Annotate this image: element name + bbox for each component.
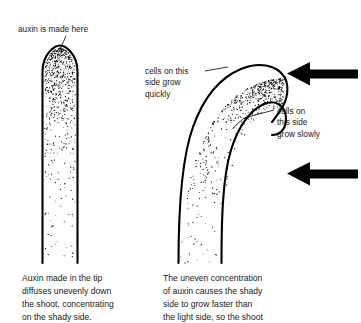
stipple-dot	[280, 97, 281, 98]
stipple-dot	[65, 76, 66, 77]
stipple-dot	[56, 98, 57, 99]
stipple-dot	[57, 66, 58, 67]
stipple-dot	[255, 105, 256, 106]
stipple-dot	[265, 85, 266, 86]
stipple-dot	[71, 120, 72, 121]
stipple-dot	[216, 147, 217, 148]
stipple-dot	[69, 61, 70, 62]
stipple-dot	[206, 161, 207, 162]
stipple-dot	[188, 223, 189, 224]
stipple-dot	[54, 110, 55, 111]
stipple-dot	[67, 52, 68, 53]
stipple-dot	[280, 92, 281, 93]
stipple-dot	[232, 102, 233, 103]
stipple-dot	[66, 79, 67, 80]
stipple-dot	[51, 113, 52, 114]
stipple-dot	[52, 225, 53, 226]
stipple-dot	[71, 80, 72, 81]
stipple-dot	[51, 108, 52, 109]
stipple-dot	[235, 117, 236, 118]
stipple-dot	[50, 124, 51, 125]
stipple-dot	[67, 56, 68, 57]
stipple-dot	[216, 194, 217, 195]
stipple-dot	[70, 68, 71, 69]
stipple-dot	[256, 93, 257, 94]
stipple-dot	[187, 261, 188, 262]
stipple-dot	[208, 132, 209, 133]
stipple-dot	[231, 110, 232, 111]
stipple-dot	[231, 122, 232, 123]
stipple-dot	[265, 98, 266, 99]
stipple-dot	[44, 128, 45, 129]
stipple-dot	[65, 135, 66, 136]
stipple-dot	[234, 148, 235, 149]
stipple-dot	[257, 89, 258, 90]
figure-root: auxin is made here cells on this side gr…	[0, 0, 361, 323]
stipple-dot	[205, 164, 206, 165]
stipple-dot	[61, 103, 62, 104]
stipple-dot	[68, 88, 69, 89]
stipple-dot	[73, 177, 74, 178]
stipple-dot	[230, 117, 231, 118]
stipple-dot	[72, 252, 73, 253]
stipple-dot	[64, 76, 65, 77]
stipple-dot	[47, 63, 48, 64]
stipple-dot	[243, 101, 244, 102]
stipple-dot	[269, 84, 270, 85]
stipple-dot	[70, 153, 71, 154]
stipple-dot	[55, 93, 56, 94]
stipple-dot	[261, 93, 262, 94]
stipple-dot	[45, 90, 46, 91]
stipple-dot	[61, 62, 62, 63]
stipple-dot	[227, 168, 228, 169]
stipple-dot	[57, 58, 58, 59]
stipple-dot	[253, 85, 254, 86]
stipple-dot	[188, 203, 189, 204]
stipple-dot	[208, 142, 209, 143]
stipple-dot	[60, 100, 61, 101]
stipple-dot	[253, 119, 254, 120]
stipple-dot	[279, 98, 280, 99]
stipple-dot	[272, 80, 273, 81]
stipple-dot	[50, 111, 51, 112]
stipple-dot	[55, 67, 56, 68]
stipple-dot	[267, 82, 268, 83]
stipple-dot	[218, 157, 219, 158]
stipple-dot	[72, 61, 73, 62]
stipple-dot	[57, 76, 58, 77]
stipple-dot	[74, 82, 75, 83]
stipple-dot	[47, 87, 48, 88]
stipple-dot	[52, 85, 53, 86]
stipple-dot	[65, 105, 66, 106]
stipple-dot	[48, 213, 49, 214]
stipple-dot	[282, 88, 283, 89]
stipple-dot	[46, 71, 47, 72]
stipple-dot	[265, 91, 266, 92]
stipple-dot	[56, 61, 57, 62]
stipple-dot	[207, 139, 208, 140]
stipple-dot	[265, 96, 266, 97]
stipple-dot	[67, 88, 68, 89]
stipple-dot	[268, 98, 269, 99]
stipple-dot	[281, 83, 282, 84]
stipple-dot	[280, 95, 281, 96]
stipple-dot	[53, 55, 54, 56]
stipple-dot	[207, 250, 208, 251]
stipple-dot	[51, 160, 52, 161]
stipple-dot	[71, 136, 72, 137]
stipple-dot	[62, 48, 63, 49]
stipple-dot	[66, 82, 67, 83]
stipple-dot	[61, 102, 62, 103]
stipple-dot	[54, 72, 55, 73]
stipple-dot	[279, 101, 280, 102]
stipple-dot	[194, 185, 195, 186]
stipple-dot	[47, 91, 48, 92]
stipple-dot	[61, 60, 62, 61]
stipple-dot	[68, 97, 69, 98]
stipple-dot	[64, 187, 65, 188]
stipple-dot	[63, 72, 64, 73]
stipple-dot	[69, 143, 70, 144]
stipple-dot	[54, 61, 55, 62]
stipple-dot	[279, 100, 280, 101]
stipple-dot	[55, 68, 56, 69]
